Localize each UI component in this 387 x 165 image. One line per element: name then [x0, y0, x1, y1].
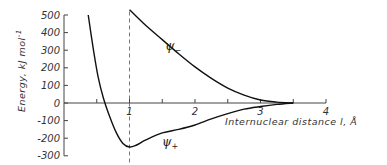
potential-energy-chart: 5004003002001000-100-200-300 1234 Energy…: [0, 0, 387, 165]
psi-plus-curve: [88, 15, 293, 147]
y-tick-label: 300: [41, 45, 60, 56]
y-axis: 5004003002001000-100-200-300: [37, 10, 68, 162]
x-tick-label: 2: [192, 106, 198, 117]
y-tick-label: 500: [41, 10, 60, 21]
psi-minus-label: ψ−: [165, 39, 181, 55]
y-tick-label: -300: [37, 150, 60, 161]
y-tick-label: 400: [41, 27, 60, 38]
y-tick-label: -200: [37, 133, 60, 144]
psi-minus-curve: [130, 10, 294, 103]
y-tick-label: 0: [54, 98, 60, 109]
psi-plus-label: ψ+: [162, 135, 178, 151]
y-tick-label: 200: [41, 62, 60, 73]
y-axis-label: Energy, kJ mol-1: [15, 29, 27, 112]
y-tick-label: -100: [37, 115, 60, 126]
y-tick-label: 100: [41, 80, 60, 91]
x-axis-label: Internuclear distance l, Å: [225, 116, 357, 127]
